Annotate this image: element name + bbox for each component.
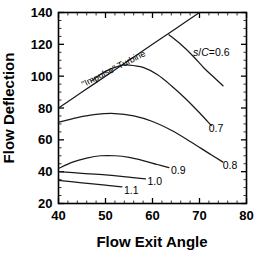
curve-label-0.9: 0.9 xyxy=(171,164,186,176)
y-tick-label: 120 xyxy=(31,37,53,52)
x-tick-label: 70 xyxy=(192,208,206,223)
y-tick-label: 100 xyxy=(31,69,53,84)
y-tick-label: 140 xyxy=(31,5,53,20)
x-tick-label: 60 xyxy=(145,208,159,223)
x-axis-title: Flow Exit Angle xyxy=(96,233,207,250)
x-tick-label: 40 xyxy=(51,208,65,223)
chart-figure: 405060708020406080100120140 s/C=0.60.70.… xyxy=(0,0,263,263)
x-tick-label: 80 xyxy=(239,208,253,223)
curve-label-sC0.6: s/C=0.6 xyxy=(193,46,230,58)
y-tick-label: 40 xyxy=(38,164,52,179)
y-tick-label: 60 xyxy=(38,132,52,147)
curve-label-0.8: 0.8 xyxy=(223,159,238,171)
flow-deflection-chart: 405060708020406080100120140 s/C=0.60.70.… xyxy=(0,0,263,263)
y-tick-label: 80 xyxy=(38,101,52,116)
curve-label-0.7: 0.7 xyxy=(209,122,224,134)
x-tick-label: 50 xyxy=(98,208,112,223)
y-axis-title: Flow Deflection xyxy=(0,53,17,164)
y-tick-label: 20 xyxy=(38,196,52,211)
curve-label-1.0: 1.0 xyxy=(148,175,163,187)
curve-label-1.1: 1.1 xyxy=(124,184,139,196)
